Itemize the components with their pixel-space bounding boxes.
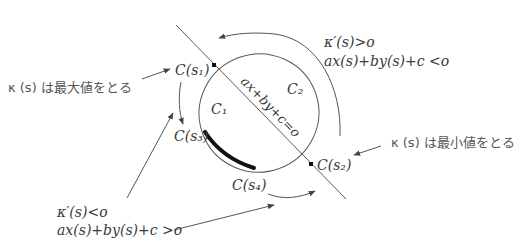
label-c-s3: C(s₃): [174, 128, 208, 144]
max-curvature-note: κ (s) は最大値をとる: [8, 80, 132, 95]
max-label-pointer: [142, 69, 170, 79]
lower-left-condition-2: ax(s)+by(s)+c >o: [57, 222, 182, 238]
label-c1: C₁: [211, 101, 227, 117]
min-label-pointer: [354, 146, 381, 155]
highlighted-arc: [205, 132, 254, 168]
point-s1: [212, 63, 216, 67]
label-c-s4: C(s₄): [232, 177, 266, 193]
curvature-diagram: C(s₁) C(s₂) C(s₃) C(s₄) C₁ C₂ ax+by+c=o …: [0, 0, 531, 247]
s4-to-s2-arrow: [268, 191, 315, 198]
diagram-svg: C(s₁) C(s₂) C(s₃) C(s₄) C₁ C₂ ax+by+c=o …: [0, 0, 531, 247]
lower-left-condition-1: κ′(s)<o: [56, 204, 108, 220]
label-c-s2: C(s₂): [317, 157, 351, 173]
label-c2: C₂: [287, 81, 304, 97]
point-s2: [309, 162, 313, 166]
s1-to-s3-arrow: [179, 82, 183, 124]
min-curvature-note: κ (s) は最小値をとる: [391, 135, 515, 150]
closed-curve: [182, 37, 335, 189]
label-c-s1: C(s₁): [175, 62, 209, 78]
lower-left-pointer-up: [127, 113, 173, 198]
lower-left-pointer-right: [174, 205, 274, 230]
upper-right-condition-1: κ′(s)>o: [323, 34, 375, 50]
upper-right-condition-2: ax(s)+by(s)+c <o: [324, 53, 449, 69]
